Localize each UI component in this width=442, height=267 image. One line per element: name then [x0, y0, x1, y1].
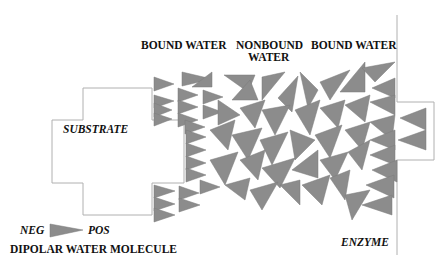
nonbound-water-label-line2: WATER — [248, 52, 289, 64]
legend-neg-label: NEG — [20, 225, 44, 237]
bound-water-right-label: BOUND WATER — [311, 40, 397, 52]
legend-pos-label: POS — [88, 225, 110, 237]
substrate-label: SUBSTRATE — [63, 124, 128, 136]
bound-water-left-label: BOUND WATER — [141, 40, 227, 52]
legend-molecule-icon — [50, 224, 83, 237]
nonbound-water-label-line1: NONBOUND — [236, 40, 303, 52]
legend-caption: DIPOLAR WATER MOLECULE — [10, 244, 177, 256]
water-molecules — [154, 62, 426, 222]
enzyme-label: ENZYME — [341, 237, 389, 249]
